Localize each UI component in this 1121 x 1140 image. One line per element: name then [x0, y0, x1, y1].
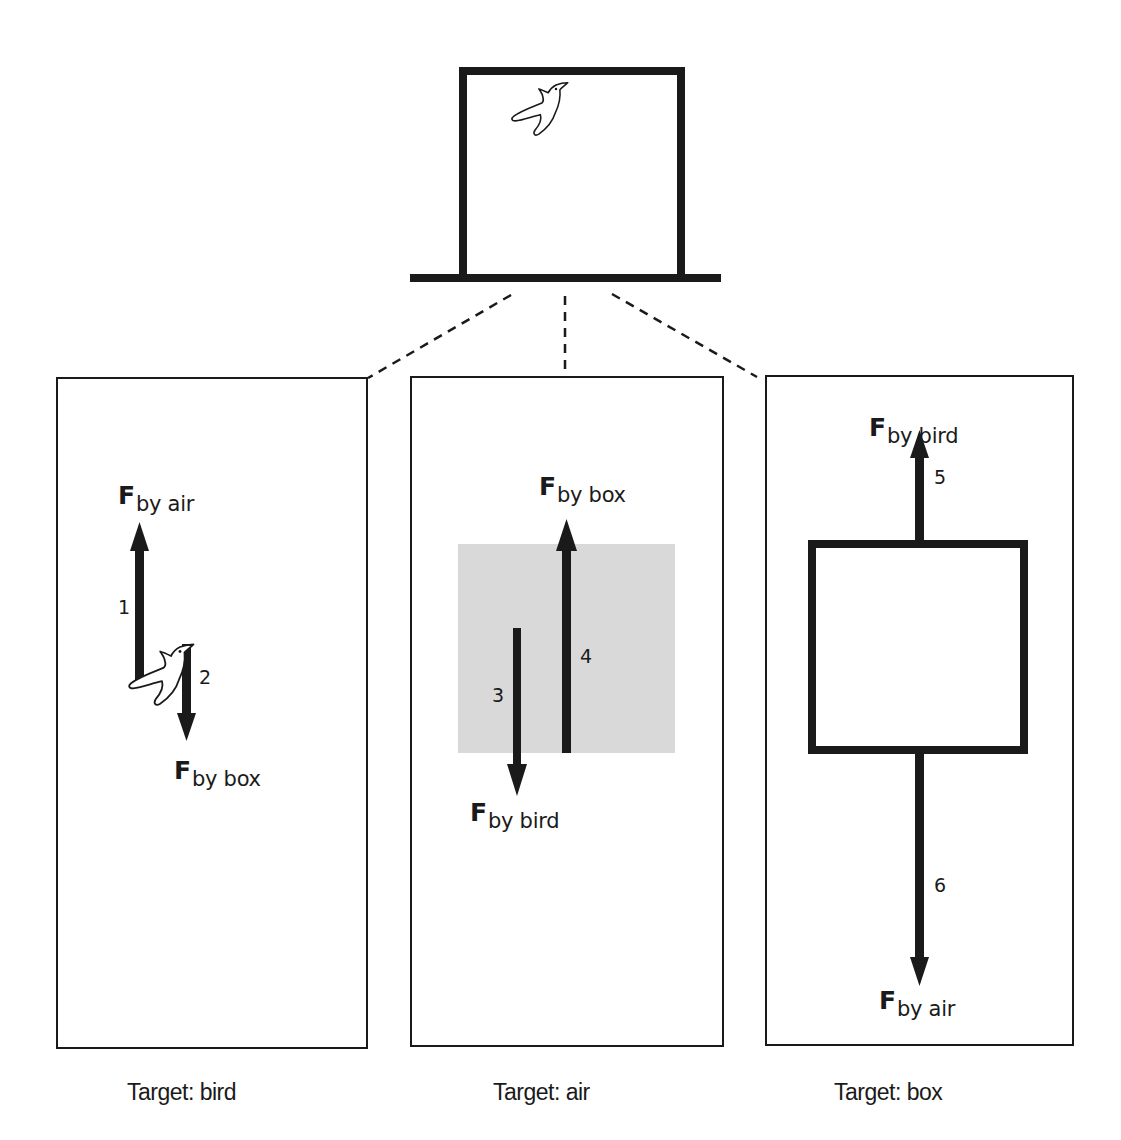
scene-box — [410, 71, 721, 282]
force-subscript: by air — [136, 492, 194, 516]
force-label-2: Fby box — [174, 758, 261, 783]
force-label-5: Fby bird — [869, 415, 958, 440]
force-symbol: F — [470, 798, 487, 827]
box-object — [812, 544, 1024, 750]
force-subscript: by bird — [887, 424, 958, 448]
force-subscript: by box — [192, 767, 261, 791]
dashed-connectors — [368, 294, 757, 378]
force-label-4: Fby box — [539, 474, 626, 499]
force-number-3: 3 — [492, 686, 504, 705]
force-subscript: by bird — [488, 809, 559, 833]
force-number-1: 1 — [118, 598, 130, 617]
diagram-stage: Fby air 1 2 Fby box Fby box 4 3 Fby bird… — [0, 0, 1121, 1140]
arrow-6-down — [910, 754, 929, 986]
scene-bird-icon — [512, 83, 568, 135]
caption-target-air: Target: air — [493, 1081, 590, 1104]
arrow-1-up — [130, 522, 149, 683]
force-number-5: 5 — [934, 468, 946, 487]
force-label-1: Fby air — [118, 483, 194, 508]
force-symbol: F — [869, 413, 886, 442]
force-symbol: F — [174, 756, 191, 785]
panel-bird-frame — [57, 378, 367, 1048]
force-symbol: F — [118, 481, 135, 510]
force-subscript: by box — [557, 483, 626, 507]
force-subscript: by air — [897, 997, 955, 1021]
force-symbol: F — [879, 986, 896, 1015]
force-label-3: Fby bird — [470, 800, 559, 825]
caption-target-bird: Target: bird — [127, 1081, 236, 1104]
force-number-2: 2 — [199, 668, 211, 687]
caption-target-box: Target: box — [834, 1081, 942, 1104]
force-number-4: 4 — [580, 647, 592, 666]
force-number-6: 6 — [934, 876, 946, 895]
diagram-graphics — [0, 0, 1121, 1140]
ground-surface — [410, 274, 721, 282]
force-symbol: F — [539, 472, 556, 501]
force-label-6: Fby air — [879, 988, 955, 1013]
